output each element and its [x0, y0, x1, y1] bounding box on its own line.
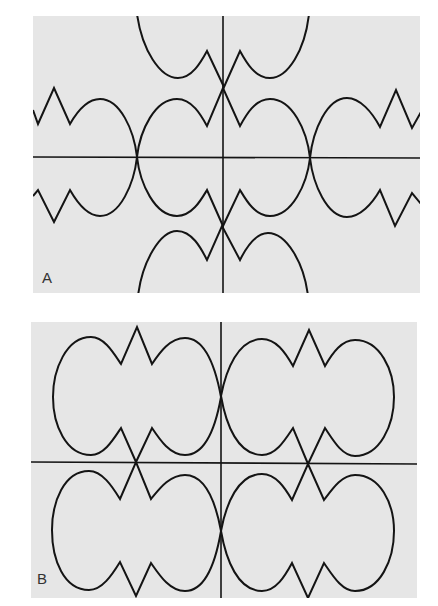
panel-b-x-axis — [31, 462, 417, 464]
panel-a-middle-lower-curve — [33, 157, 421, 226]
panel-b-upper-left-curve — [53, 327, 221, 462]
panel-b-lower-right-curve — [221, 464, 394, 598]
curves-plot: A B — [0, 0, 438, 606]
panel-b-label: B — [37, 570, 47, 587]
panel-a-middle-upper-curve — [33, 88, 421, 158]
figure: A B — [0, 0, 438, 606]
panel-a-label: A — [42, 269, 52, 286]
panel-b-lower-left-curve — [52, 462, 221, 596]
panel-a-plot: A — [33, 14, 421, 296]
panel-b-upper-right-curve — [221, 330, 394, 464]
panel-b-plot: B — [31, 322, 417, 598]
panel-a-x-axis — [33, 157, 420, 158]
